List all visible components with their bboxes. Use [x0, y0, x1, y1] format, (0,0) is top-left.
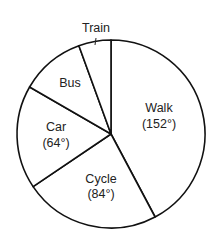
label-walk: Walk — [145, 101, 173, 115]
label-train: Train — [82, 21, 110, 35]
pie-chart: Walk (152°) Cycle (84°) Car (64°) Bus Tr… — [0, 0, 216, 244]
label-cycle-value: (84°) — [87, 187, 114, 201]
label-car-value: (64°) — [42, 136, 69, 150]
label-car: Car — [46, 120, 66, 134]
label-bus: Bus — [59, 76, 81, 90]
label-walk-value: (152°) — [142, 117, 176, 131]
label-cycle: Cycle — [85, 172, 116, 186]
